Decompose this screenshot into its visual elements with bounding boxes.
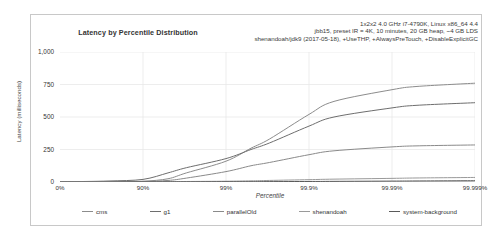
legend-item-shenandoah[interactable]: shenandoah — [299, 208, 347, 215]
legend-label: shenandoah — [313, 208, 347, 215]
legend-item-g1[interactable]: g1 — [150, 208, 171, 215]
chart-title: Latency by Percentile Distribution — [48, 28, 228, 37]
legend-label: cms — [96, 208, 107, 215]
legend-swatch-icon — [299, 211, 310, 212]
x-axis-tick-label: 0% — [56, 184, 65, 191]
y-axis-tick-label: 250 — [14, 146, 54, 153]
subtitle-line-3: shenandoah/jdk9 (2017-05-18), +UseTHP, +… — [254, 35, 478, 42]
legend-swatch-icon — [389, 211, 400, 212]
series-line-parallelOld — [60, 145, 475, 182]
legend-label: system-background — [403, 208, 457, 215]
y-axis-tick-label: 1,000 — [14, 48, 54, 55]
x-axis-tick-label: 90% — [137, 184, 149, 191]
series-line-g1 — [60, 103, 475, 182]
chart-legend: cmsg1parallelOldshenandoahsystem-backgro… — [60, 208, 475, 215]
x-axis-tick-label: 99.999% — [463, 184, 487, 191]
legend-swatch-icon — [82, 211, 93, 212]
x-axis-tick-label: 99.9% — [300, 184, 318, 191]
legend-label: g1 — [164, 208, 171, 215]
series-line-cms — [60, 83, 475, 182]
plot-svg — [60, 52, 475, 182]
legend-swatch-icon — [150, 211, 161, 212]
legend-item-cms[interactable]: cms — [82, 208, 107, 215]
legend-item-system-background[interactable]: system-background — [389, 208, 457, 215]
y-axis-tick-label: 750 — [14, 81, 54, 88]
x-axis-tick-label: 99.99% — [382, 184, 403, 191]
plot-area — [60, 52, 475, 182]
legend-label: parallelOld — [227, 208, 257, 215]
subtitle-line-1: 1x2x2 4.0 GHz i7-4790K, Linux x86_64 4.4 — [254, 20, 478, 27]
chart-screenshot: Latency by Percentile Distribution 1x2x2… — [0, 0, 492, 238]
x-axis-title: Percentile — [60, 192, 480, 199]
legend-item-parallelOld[interactable]: parallelOld — [213, 208, 257, 215]
legend-swatch-icon — [213, 211, 224, 212]
chart-subtitle: 1x2x2 4.0 GHz i7-4790K, Linux x86_64 4.4… — [254, 20, 478, 42]
y-axis-tick-label: 0 — [14, 178, 54, 185]
y-axis-tick-label: 500 — [14, 113, 54, 120]
subtitle-line-2: jbb15, preset IR = 4K, 10 minutes, 20 GB… — [254, 27, 478, 34]
x-axis-tick-label: 99% — [220, 184, 232, 191]
